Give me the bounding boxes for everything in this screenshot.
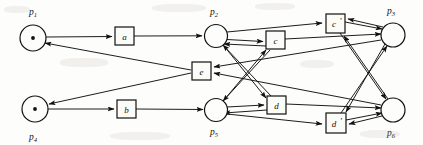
arc-b-p5 [136,109,203,110]
place-p3[interactable] [381,23,405,47]
place-layer [20,23,405,122]
place-p5[interactable] [205,99,228,122]
token-p4 [33,107,37,111]
arc-p6-dprime [349,116,382,124]
place-p1[interactable] [20,25,46,51]
petri-net-canvas: a b c c ′ d d ′ [0,0,423,145]
transition-e[interactable]: e [192,62,211,80]
place-p2-label: p2 [209,7,219,18]
arc-d-p5 [224,110,267,113]
arc-e-p4 [49,73,191,104]
arc-p2-c [227,40,263,42]
transition-a[interactable]: a [115,27,134,45]
place-p1-label: p1 [28,7,37,18]
transition-d-prime[interactable]: d ′ [326,113,346,133]
arc-dprime-p6 [346,113,382,120]
arc-p6-e [214,73,381,105]
transition-c-label: c [274,36,278,46]
place-p6-label: p6 [386,128,396,139]
arc-dprime-p3 [341,46,387,113]
place-p5-label: p5 [209,127,219,138]
token-p1 [31,36,35,40]
transition-c-prime[interactable]: c ′ [326,14,345,33]
transition-c[interactable]: c [266,31,285,49]
transition-a-label: a [122,32,127,42]
transition-b-label: b [124,105,129,115]
arc-p5-dprime [227,114,322,124]
transition-e-label: e [200,67,204,77]
arc-e-p1 [45,43,191,70]
place-p4[interactable] [22,96,48,122]
transition-c-prime-label: c [332,19,336,29]
arc-p6-cprime [344,36,388,99]
arc-c-p5 [223,50,270,101]
transition-b[interactable]: b [117,100,136,118]
arc-d-p6 [286,104,381,108]
petri-net-figure: a b c c ′ d d ′ [0,0,423,145]
place-p3-label: p3 [386,6,396,17]
arc-p1-a [46,37,112,38]
arc-c-p2 [224,44,266,46]
place-p2[interactable] [205,25,228,48]
arc-p2-d [224,46,266,98]
arc-c-p3 [285,34,381,39]
place-p4-label: p4 [28,132,38,143]
transition-d-label: d [274,101,279,111]
transition-d-prime-label: d [332,119,337,129]
transition-d[interactable]: d [267,96,286,114]
place-p6[interactable] [381,98,405,122]
arc-p5-d [227,105,264,107]
